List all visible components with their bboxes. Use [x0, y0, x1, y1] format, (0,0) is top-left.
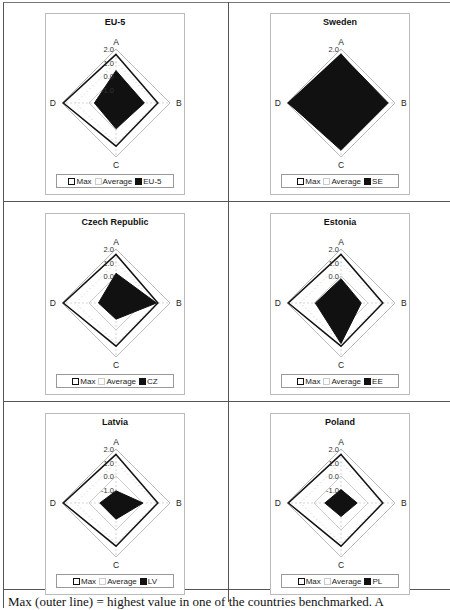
legend-entry: Max	[298, 577, 321, 586]
svg-text:A: A	[113, 37, 119, 47]
legend-swatch-icon	[364, 578, 371, 585]
svg-text:B: B	[176, 298, 182, 308]
svg-text:A: A	[338, 237, 344, 247]
svg-text:A: A	[338, 37, 344, 47]
chart-cell-estonia: Estonia2.01.00.0ABCDMaxAverageEE	[228, 202, 450, 401]
legend-swatch-icon	[73, 578, 80, 585]
svg-text:D: D	[275, 298, 281, 308]
radar-plot: 2.0ABCD	[271, 14, 411, 174]
radar-chart: EU-52.01.00.0-1.0ABCDMaxAverageEU-5	[45, 13, 185, 195]
legend-swatch-icon	[135, 178, 142, 185]
chart-cell-sweden: Sweden2.0ABCDMaxAverageSE	[228, 2, 450, 201]
legend-swatch-icon	[297, 378, 304, 385]
svg-text:A: A	[338, 437, 344, 447]
legend-swatch-icon	[99, 578, 106, 585]
legend-entry: PL	[364, 577, 382, 586]
svg-text:0.0: 0.0	[104, 472, 114, 481]
legend-entry: Max	[68, 177, 91, 186]
legend-entry: LV	[140, 577, 157, 586]
legend-entry: CZ	[139, 377, 158, 386]
legend-entry: SE	[364, 177, 383, 186]
legend-swatch-icon	[323, 178, 330, 185]
svg-text:B: B	[401, 298, 407, 308]
legend-entry: Average	[324, 577, 362, 586]
legend-entry: Average	[323, 377, 361, 386]
chart-legend: MaxAverageEU-5	[56, 174, 174, 188]
legend-swatch-icon	[95, 178, 102, 185]
svg-text:1.0: 1.0	[104, 459, 114, 468]
legend-swatch-icon	[323, 378, 330, 385]
svg-text:C: C	[338, 360, 344, 370]
svg-text:D: D	[50, 498, 56, 508]
svg-text:0.0: 0.0	[104, 72, 114, 81]
svg-text:-1.0: -1.0	[101, 86, 114, 95]
svg-text:C: C	[113, 160, 119, 170]
svg-text:0.0: 0.0	[329, 272, 339, 281]
svg-text:C: C	[113, 560, 119, 570]
legend-swatch-icon	[139, 378, 146, 385]
chart-legend: MaxAveragePL	[281, 574, 399, 588]
radar-plot: 2.01.00.0-1.0ABCD	[271, 414, 411, 574]
radar-plot: 2.01.00.0ABCD	[46, 214, 186, 374]
svg-text:B: B	[401, 98, 407, 108]
legend-entry: Average	[98, 377, 136, 386]
radar-plot: 2.01.00.0-1.0ABCD	[46, 414, 186, 574]
radar-chart: Poland2.01.00.0-1.0ABCDMaxAveragePL	[270, 413, 410, 595]
chart-cell-poland: Poland2.01.00.0-1.0ABCDMaxAveragePL	[228, 402, 450, 601]
svg-text:1.0: 1.0	[329, 459, 339, 468]
radar-plot: 2.01.00.0ABCD	[271, 214, 411, 374]
legend-swatch-icon	[364, 178, 371, 185]
legend-swatch-icon	[68, 178, 75, 185]
svg-text:A: A	[113, 237, 119, 247]
legend-entry: Max	[297, 177, 320, 186]
radar-chart: Czech Republic2.01.00.0ABCDMaxAverageCZ	[45, 213, 185, 395]
radar-chart: Estonia2.01.00.0ABCDMaxAverageEE	[270, 213, 410, 395]
chart-cell-czech-republic: Czech Republic2.01.00.0ABCDMaxAverageCZ	[3, 202, 228, 401]
legend-entry: EU-5	[135, 177, 161, 186]
legend-entry: Max	[73, 577, 96, 586]
chart-legend: MaxAverageEE	[281, 374, 399, 388]
legend-swatch-icon	[298, 578, 305, 585]
svg-text:C: C	[113, 360, 119, 370]
chart-cell-eu-5: EU-52.01.00.0-1.0ABCDMaxAverageEU-5	[3, 2, 228, 201]
legend-entry: Average	[99, 577, 137, 586]
radar-chart: Latvia2.01.00.0-1.0ABCDMaxAverageLV	[45, 413, 185, 595]
svg-text:C: C	[338, 560, 344, 570]
svg-text:C: C	[338, 160, 344, 170]
chart-legend: MaxAverageSE	[281, 174, 399, 188]
chart-cell-latvia: Latvia2.01.00.0-1.0ABCDMaxAverageLV	[3, 402, 228, 601]
legend-swatch-icon	[364, 378, 371, 385]
legend-entry: EE	[364, 377, 383, 386]
radar-chart: Sweden2.0ABCDMaxAverageSE	[270, 13, 410, 195]
legend-entry: Max	[297, 377, 320, 386]
svg-text:0.0: 0.0	[104, 272, 114, 281]
chart-legend: MaxAverageCZ	[56, 374, 174, 388]
legend-swatch-icon	[324, 578, 331, 585]
figure-caption: Max (outer line) = highest value in one …	[8, 594, 384, 610]
svg-text:-1.0: -1.0	[101, 486, 114, 495]
svg-text:1.0: 1.0	[104, 59, 114, 68]
svg-text:B: B	[176, 498, 182, 508]
legend-entry: Max	[72, 377, 95, 386]
chart-legend: MaxAverageLV	[56, 574, 174, 588]
svg-text:D: D	[275, 498, 281, 508]
svg-text:B: B	[401, 498, 407, 508]
svg-text:A: A	[113, 437, 119, 447]
svg-text:B: B	[176, 98, 182, 108]
legend-entry: Average	[95, 177, 133, 186]
radar-plot: 2.01.00.0-1.0ABCD	[46, 14, 186, 174]
legend-entry: Average	[323, 177, 361, 186]
svg-text:-1.0: -1.0	[326, 486, 339, 495]
svg-text:0.0: 0.0	[329, 472, 339, 481]
legend-swatch-icon	[98, 378, 105, 385]
svg-text:D: D	[50, 98, 56, 108]
svg-text:1.0: 1.0	[104, 259, 114, 268]
legend-swatch-icon	[72, 378, 79, 385]
svg-text:D: D	[50, 298, 56, 308]
svg-text:D: D	[275, 98, 281, 108]
legend-swatch-icon	[140, 578, 147, 585]
svg-text:1.0: 1.0	[329, 259, 339, 268]
legend-swatch-icon	[297, 178, 304, 185]
